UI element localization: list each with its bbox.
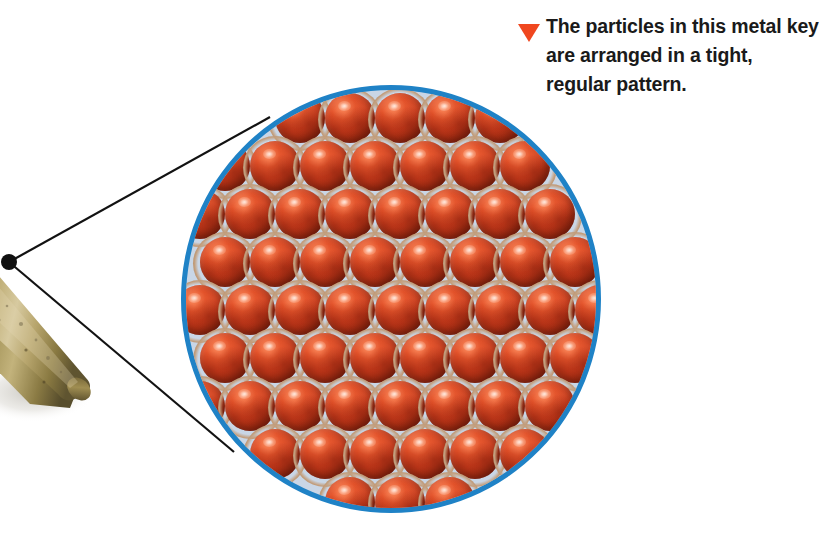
- figure-canvas: The particles in this metal key are arra…: [0, 0, 832, 542]
- particle-sphere: [525, 381, 575, 431]
- particle-sphere: [550, 333, 600, 383]
- particle-sphere: [500, 141, 550, 191]
- particle-sphere: [525, 189, 575, 239]
- particle-sphere: [550, 237, 600, 287]
- particle-sphere: [500, 429, 550, 479]
- red-triangle-bullet-icon: [518, 24, 540, 42]
- caption-text: The particles in this metal key are arra…: [512, 12, 820, 99]
- particle-lattice: [181, 85, 601, 513]
- particle-sphere: [475, 93, 525, 143]
- brass-key-photograph: [0, 232, 116, 432]
- magnified-particle-view: [181, 85, 601, 513]
- key-photo-svg: [0, 232, 116, 432]
- caption-block: The particles in this metal key are arra…: [512, 12, 820, 99]
